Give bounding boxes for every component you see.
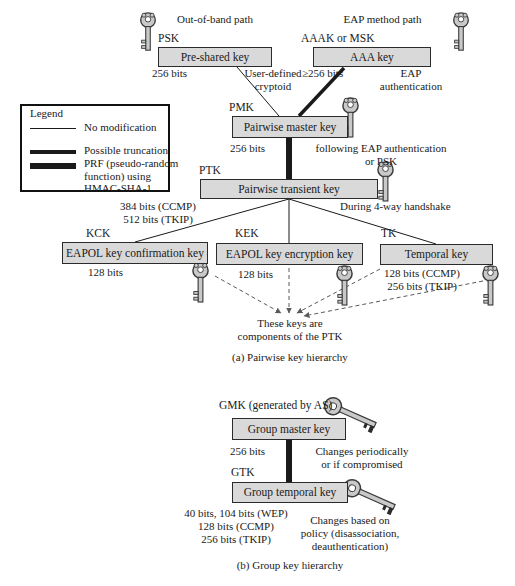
kek-tag: KEK	[235, 227, 259, 240]
legend-thin-line-sample	[30, 128, 76, 129]
psk-key-icon	[141, 13, 156, 50]
eapol-key-encryption-key-box: EAPOL key encryption key	[216, 243, 363, 265]
pairwise-master-key-box: Pairwise master key	[232, 116, 348, 138]
legend-item-possible-truncation: Possible truncation	[84, 144, 168, 157]
kck-component-dashed-line	[215, 276, 281, 313]
temporal-key-box: Temporal key	[380, 244, 493, 265]
gmk-bits-label: 256 bits	[230, 445, 265, 458]
legend-medium-line-sample	[30, 150, 76, 154]
four-way-handshake-note: During 4-way handshake	[340, 200, 451, 213]
changes-periodically-note: Changes periodically or if compromised	[305, 445, 419, 471]
key-hierarchy-diagram: Legend No modification Possible truncati…	[0, 0, 515, 586]
tk-tag: TK	[381, 227, 396, 240]
ptk-bits-label: 384 bits (CCMP) 512 bits (TKIP)	[118, 200, 198, 226]
ptk-tag: PTK	[199, 164, 221, 177]
legend-title: Legend	[30, 107, 63, 120]
aaa-key-box: AAA key	[313, 47, 431, 67]
legend-item-no-modification: No modification	[84, 121, 156, 134]
user-defined-cryptoid-note: User-defined cryptoid	[233, 67, 313, 93]
kck-key-icon	[193, 263, 208, 302]
pre-shared-key-box: Pre-shared key	[158, 47, 272, 67]
pairwise-caption: (a) Pairwise key hierarchy	[190, 351, 390, 364]
gtk-tag: GTK	[231, 466, 255, 479]
ptk-components-note: These keys are components of the PTK	[215, 317, 365, 343]
aaak-or-msk-tag: AAAK or MSK	[301, 32, 374, 45]
eap-method-path-label: EAP method path	[335, 13, 430, 26]
eapol-key-confirmation-key-box: EAPOL key confirmation key	[62, 242, 208, 264]
legend-item-prf: PRF (pseudo-random function) using HMAC-…	[84, 157, 178, 195]
psk-bits-label: 256 bits	[152, 67, 187, 80]
kek-key-icon	[337, 266, 352, 305]
gtk-key-icon	[341, 477, 398, 515]
aaa-bits-label: ≥256 bits	[302, 67, 343, 80]
pairwise-transient-key-box: Pairwise transient key	[200, 179, 378, 199]
changes-policy-note: Changes based on policy (disassociation,…	[287, 514, 413, 553]
following-eap-note: following EAP authentication or PSK	[298, 142, 464, 168]
group-temporal-key-box: Group temporal key	[232, 482, 348, 503]
kek-bits-label: 128 bits	[238, 268, 273, 281]
out-of-band-path-label: Out-of-band path	[169, 13, 261, 26]
gmk-tag: GMK (generated by AS)	[219, 399, 332, 412]
kck-bits-label: 128 bits	[88, 266, 123, 279]
group-caption: (b) Group key hierarchy	[190, 559, 390, 572]
tk-key-icon	[483, 266, 498, 305]
group-master-key-box: Group master key	[232, 418, 346, 440]
legend-thick-line-sample	[30, 163, 76, 169]
aaa-key-icon	[454, 13, 469, 50]
kck-tag: KCK	[86, 227, 110, 240]
pmk-bits-label: 256 bits	[230, 142, 265, 155]
psk-tag: PSK	[158, 32, 179, 45]
gtk-bits-label: 40 bits, 104 bits (WEP) 128 bits (CCMP) …	[174, 507, 298, 546]
tk-bits-label: 128 bits (CCMP) 256 bits (TKIP)	[381, 267, 463, 293]
eap-authentication-note: EAP authentication	[370, 67, 452, 93]
pmk-tag: PMK	[229, 101, 254, 114]
